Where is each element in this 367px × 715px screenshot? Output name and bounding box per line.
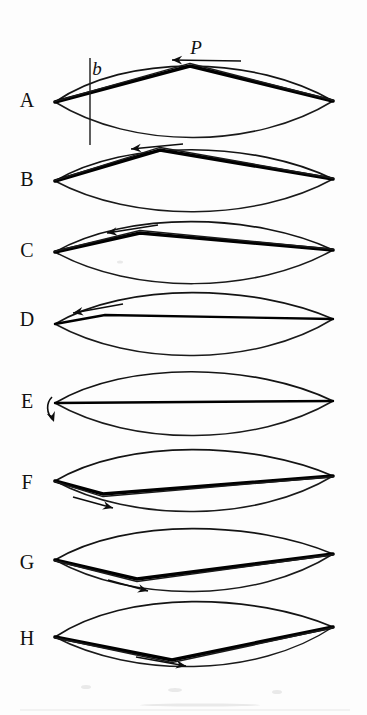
width-dimension-b-label: b <box>92 58 102 79</box>
lower-outline-curve <box>55 401 333 436</box>
panel-f <box>55 450 333 512</box>
panel-label-e: E <box>21 390 33 412</box>
annotation-layer: P b <box>92 37 202 79</box>
buckled-rod <box>55 315 333 324</box>
buckled-rod <box>55 627 333 660</box>
buckling-sequence-diagram: ABCDEFGH P b <box>0 0 367 715</box>
motion-arrow-shaft <box>172 60 241 61</box>
upper-outline-curve <box>55 450 333 481</box>
panel-e <box>47 372 333 436</box>
buckled-rod <box>55 401 333 403</box>
lower-outline-curve <box>55 319 333 356</box>
panel-label-c: C <box>20 239 33 261</box>
panel-label-f: F <box>21 471 32 493</box>
panel-h <box>55 602 333 669</box>
upper-outline-curve <box>55 372 333 403</box>
panels-layer <box>47 56 333 669</box>
buckled-rod <box>55 476 333 494</box>
panel-label-b: B <box>20 168 33 190</box>
panel-label-a: A <box>20 89 35 111</box>
applied-load-P-label: P <box>189 37 202 58</box>
panel-g <box>55 529 333 593</box>
upper-outline-curve <box>55 529 333 560</box>
panel-label-d: D <box>20 308 34 330</box>
panel-b <box>55 144 333 212</box>
buckled-rod <box>55 150 333 181</box>
panel-d <box>55 293 333 356</box>
lower-outline-curve <box>55 179 333 212</box>
buckled-rod <box>55 554 333 579</box>
panel-label-g: G <box>20 551 34 573</box>
lower-outline-curve <box>55 101 333 137</box>
upper-outline-curve <box>55 602 333 637</box>
lower-outline-curve <box>55 250 333 284</box>
panel-label-h: H <box>20 627 34 649</box>
panel-labels-layer: ABCDEFGH <box>20 89 35 649</box>
figure-container: ABCDEFGH P b <box>0 0 367 715</box>
panel-c <box>55 222 333 284</box>
